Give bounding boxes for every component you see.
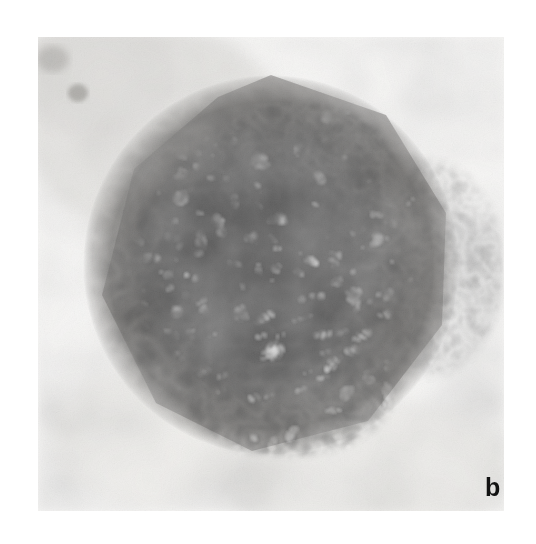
micrograph-image bbox=[38, 37, 504, 511]
micrograph-svg bbox=[38, 37, 504, 511]
film-grain bbox=[38, 37, 504, 511]
panel-label: b bbox=[485, 472, 513, 502]
figure-panel: b bbox=[0, 0, 536, 544]
